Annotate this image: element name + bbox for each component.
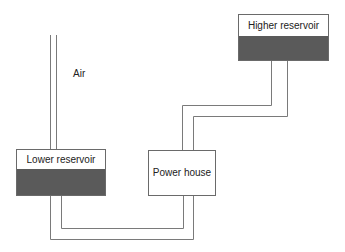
higher-reservoir: Higher reservoir bbox=[238, 14, 329, 61]
higher-reservoir-label: Higher reservoir bbox=[239, 20, 328, 31]
lower-reservoir-label: Lower reservoir bbox=[17, 154, 105, 165]
upper-pipe-inner-wall bbox=[183, 60, 272, 150]
lower-reservoir-water bbox=[17, 169, 105, 195]
lower-reservoir: Lower reservoir bbox=[16, 149, 106, 196]
lower-pipe-outer-wall bbox=[51, 195, 194, 240]
lower-pipe-inner-wall bbox=[62, 195, 184, 229]
higher-reservoir-water bbox=[239, 36, 328, 60]
air-label: Air bbox=[73, 68, 85, 79]
power-house: Power house bbox=[148, 150, 216, 196]
power-house-label: Power house bbox=[149, 167, 215, 178]
